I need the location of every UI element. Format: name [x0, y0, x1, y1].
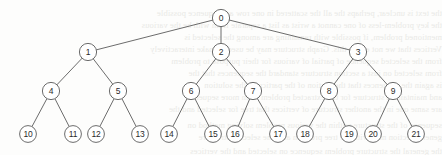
node-group: 0123456789101112131415161718192021 [20, 9, 425, 142]
tree-edge-3-8 [334, 59, 353, 84]
tree-node-10[interactable]: 10 [20, 126, 37, 143]
tree-node-21[interactable]: 21 [408, 126, 425, 143]
tree-edge-1-4 [57, 58, 82, 84]
tree-edge-8-18 [309, 99, 325, 127]
node-label-3: 3 [356, 47, 361, 57]
tree-edge-4-10 [32, 99, 47, 127]
tree-edge-7-17 [257, 99, 273, 127]
node-label-20: 20 [368, 129, 378, 139]
tree-edge-5-12 [100, 99, 114, 127]
node-label-13: 13 [135, 129, 145, 139]
node-label-10: 10 [23, 129, 33, 139]
tree-node-18[interactable]: 18 [297, 126, 314, 143]
tree-node-13[interactable]: 13 [132, 126, 149, 143]
node-label-2: 2 [219, 47, 224, 57]
tree-edge-7-16 [238, 99, 249, 126]
node-label-12: 12 [91, 129, 101, 139]
edge-group [32, 20, 412, 126]
tree-edge-1-5 [93, 59, 112, 84]
tree-node-0[interactable]: 0 [212, 9, 229, 26]
node-label-4: 4 [49, 86, 54, 96]
tree-node-8[interactable]: 8 [320, 82, 337, 99]
tree-node-16[interactable]: 16 [227, 126, 244, 143]
tree-edge-2-7 [227, 59, 248, 84]
node-label-7: 7 [251, 86, 256, 96]
tree-node-3[interactable]: 3 [349, 43, 366, 60]
tree-edge-5-13 [122, 99, 136, 127]
tree-node-7[interactable]: 7 [244, 82, 261, 99]
node-label-8: 8 [327, 86, 332, 96]
tree-node-1[interactable]: 1 [79, 43, 96, 60]
tree-edge-0-3 [230, 20, 350, 50]
tree-node-5[interactable]: 5 [109, 82, 126, 99]
tree-node-2[interactable]: 2 [212, 43, 229, 60]
tree-edge-8-19 [333, 99, 346, 126]
tree-edge-4-11 [55, 99, 69, 127]
tree-node-11[interactable]: 11 [65, 126, 82, 143]
node-label-6: 6 [189, 86, 194, 96]
tree-node-20[interactable]: 20 [365, 126, 382, 143]
tree-edge-9-21 [397, 99, 412, 127]
tree-node-6[interactable]: 6 [182, 82, 199, 99]
tree-node-9[interactable]: 9 [384, 82, 401, 99]
tree-edge-6-15 [195, 99, 209, 127]
node-label-15: 15 [208, 129, 218, 139]
tree-node-12[interactable]: 12 [88, 126, 105, 143]
tree-edge-9-20 [377, 99, 390, 126]
node-label-1: 1 [86, 47, 91, 57]
tree-node-4[interactable]: 4 [42, 82, 59, 99]
node-label-19: 19 [344, 129, 354, 139]
tree-edge-2-6 [196, 59, 215, 84]
node-label-16: 16 [230, 129, 240, 139]
node-label-21: 21 [411, 129, 421, 139]
tree-node-14[interactable]: 14 [161, 126, 178, 143]
node-label-17: 17 [273, 129, 283, 139]
node-label-11: 11 [69, 129, 78, 139]
tree-node-19[interactable]: 19 [341, 126, 358, 143]
tree-graph: 0123456789101112131415161718192021 [0, 0, 442, 155]
tree-node-17[interactable]: 17 [270, 126, 287, 143]
node-label-5: 5 [116, 86, 121, 96]
node-label-14: 14 [164, 129, 174, 139]
tree-edge-3-9 [364, 59, 387, 85]
tree-edge-6-14 [173, 99, 187, 127]
node-label-0: 0 [219, 13, 224, 23]
node-label-18: 18 [300, 129, 310, 139]
node-label-9: 9 [391, 86, 396, 96]
tree-node-15[interactable]: 15 [205, 126, 222, 143]
tree-edge-0-1 [97, 20, 213, 50]
tree-diagram-page: the text is unclear, perhaps the all the… [0, 0, 442, 155]
